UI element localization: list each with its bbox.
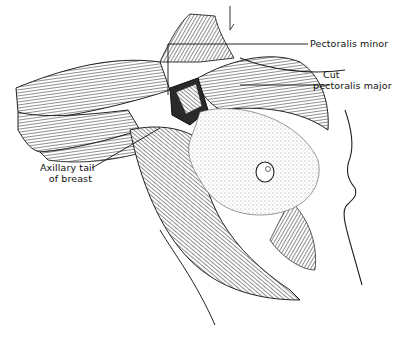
label-cut-pectoralis-major: pectoralis major (313, 80, 392, 91)
label-axillary-tail-line1: Axillary tail (40, 162, 92, 173)
label-axillary-tail-line2: of breast (40, 173, 92, 184)
label-cut-line1: Cut (323, 69, 340, 80)
nipple (256, 162, 274, 182)
anatomy-illustration: Pectoralis minor Cut pectoralis major Ax… (0, 0, 399, 339)
label-pectoralis-minor: Pectoralis minor (310, 38, 388, 49)
neck-muscles (160, 14, 234, 62)
